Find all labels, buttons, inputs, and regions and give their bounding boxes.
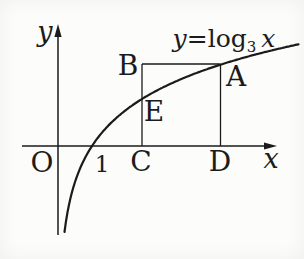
equation-lhs: y — [173, 26, 187, 51]
figure-canvas: y x O 1 B E A C D y = log 3 x — [0, 0, 304, 259]
point-label-E: E — [144, 98, 164, 126]
curve-equation-label: y = log 3 x — [173, 26, 276, 51]
point-label-A: A — [226, 63, 246, 91]
equation-argument: x — [261, 26, 275, 51]
x-axis-label: x — [263, 145, 278, 172]
equation-base-subscript: 3 — [247, 40, 257, 55]
y-axis-arrowhead — [54, 24, 61, 37]
equation-function: log — [208, 26, 247, 51]
log-curve — [65, 44, 299, 232]
point-label-C: C — [130, 148, 151, 176]
origin-label: O — [31, 149, 54, 177]
y-axis-label: y — [37, 18, 52, 45]
point-label-D: D — [209, 148, 231, 176]
point-label-B: B — [118, 52, 139, 80]
unit-tick-label: 1 — [95, 153, 110, 176]
equation-relation: = — [187, 26, 208, 51]
